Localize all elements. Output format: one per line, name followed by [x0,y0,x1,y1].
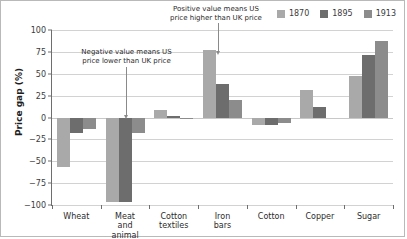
bar-group: Copper [296,30,345,205]
bar-group: Cotton [247,30,296,205]
bar-1913[interactable] [375,41,388,118]
annotation-negative-note: Negative value means US price lower than… [69,48,184,66]
bar-1895[interactable] [313,107,326,118]
bar-1870[interactable] [300,90,313,118]
bar-1870[interactable] [106,118,119,203]
y-tick-label: −100 [24,201,46,210]
bar-1913[interactable] [180,118,193,119]
y-tick-label: −50 [29,157,46,166]
y-tick-label: 50 [36,69,46,78]
chart-legend: 187018951913 [277,10,396,18]
legend-item-1895[interactable]: 1895 [320,10,352,18]
bar-group: Sugar [344,30,393,205]
bar-1895[interactable] [119,118,132,203]
bar-1870[interactable] [349,76,362,118]
legend-label: 1895 [332,10,352,18]
x-tick-mark [247,205,248,209]
bar-1870[interactable] [203,50,216,117]
x-category-label: Sugar [357,212,380,221]
y-tick-label: 25 [36,91,46,100]
y-tick-label: 75 [36,47,46,56]
x-tick-mark [149,205,150,209]
y-tick-label: 0 [41,113,46,122]
arrow-head-icon [124,115,128,119]
x-tick-mark [52,205,53,209]
x-tick-mark [344,205,345,209]
bar-group: Iron bars [198,30,247,205]
bar-1870[interactable] [57,118,70,168]
legend-item-1913[interactable]: 1913 [364,10,396,18]
legend-item-1870[interactable]: 1870 [277,10,309,18]
arrow-shaft [218,23,219,51]
chart-figure: 187018951913 Price gap (%) 1007550250−25… [0,0,405,237]
legend-label: 1913 [376,10,396,18]
arrow-shaft [126,67,127,115]
legend-label: 1870 [289,10,309,18]
y-tick-label: 100 [31,26,46,35]
y-axis-title: Price gap (%) [14,62,24,142]
bar-1870[interactable] [154,110,167,118]
x-tick-mark [198,205,199,209]
bar-1895[interactable] [70,118,83,134]
legend-swatch-icon [364,10,372,18]
gridline--100 [52,205,393,206]
bar-1870[interactable] [252,118,265,125]
x-category-label: Cotton [258,212,285,221]
bar-1913[interactable] [278,118,291,123]
y-tick-label: −25 [29,135,46,144]
bar-1913[interactable] [83,118,96,129]
annotation-positive-note: Positive value means US price higher tha… [161,5,271,23]
y-tick-label: −75 [29,179,46,188]
bar-1913[interactable] [132,118,145,134]
x-category-label: Meat and animal fats [111,212,138,239]
bar-1895[interactable] [167,116,180,118]
x-tick-mark [101,205,102,209]
bar-1913[interactable] [229,100,242,118]
arrow-head-icon [216,51,220,55]
x-category-label: Copper [305,212,334,221]
bar-1895[interactable] [265,118,278,126]
legend-swatch-icon [277,10,285,18]
x-category-label: Iron bars [210,212,234,231]
x-tick-mark [393,205,394,209]
x-tick-mark [296,205,297,209]
x-category-label: Cotton textiles [159,212,188,231]
legend-swatch-icon [320,10,328,18]
bar-1895[interactable] [216,84,229,117]
x-category-label: Wheat [63,212,89,221]
bar-1895[interactable] [362,55,375,118]
